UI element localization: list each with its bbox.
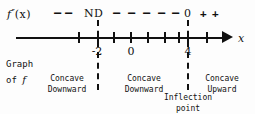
- sign-zero-marker: 0: [184, 8, 191, 20]
- graph-of-caption-line1: Graph: [6, 58, 33, 71]
- tick-mark: [78, 32, 80, 43]
- inflection-line2: point: [138, 103, 238, 114]
- inflection-line1: Inflection: [138, 92, 238, 103]
- tick-mark: [97, 32, 99, 43]
- tick-label-minus-2: -2: [92, 45, 103, 58]
- sign-minus-mid-1: –: [113, 8, 120, 18]
- tick-mark: [187, 32, 189, 43]
- sign-chart-figure: f″(x) – – ND – – – – – 0 + + x -2 0 4 Gr…: [0, 0, 255, 114]
- number-line-axis: [16, 37, 224, 39]
- region-left-concave-downward: Concave Downward: [40, 73, 94, 95]
- sign-minus-mid-2: –: [128, 8, 135, 18]
- sign-minus-left-2: –: [65, 8, 72, 18]
- sign-plus-right-2: +: [212, 8, 219, 20]
- sign-minus-mid-3: –: [143, 8, 150, 18]
- tick-mark: [147, 32, 149, 43]
- region-left-line2: Downward: [40, 84, 94, 95]
- graph-of-caption-line2: of f: [6, 73, 26, 87]
- tick-mark: [113, 32, 115, 43]
- tick-mark: [130, 32, 132, 43]
- tick-mark: [206, 32, 208, 43]
- region-left-line1: Concave: [40, 73, 94, 84]
- graph-of-prefix: of: [6, 75, 17, 85]
- axis-arrowhead-icon: [222, 31, 233, 43]
- sign-plus-right-1: +: [200, 8, 207, 20]
- sign-row: – – ND – – – – – 0 + +: [0, 8, 255, 22]
- graph-of-function-letter: f: [22, 74, 26, 85]
- sign-minus-left-1: –: [54, 8, 61, 18]
- sign-nd-marker: ND: [84, 8, 103, 20]
- sign-minus-mid-4: –: [158, 8, 165, 18]
- tick-mark: [178, 32, 180, 43]
- inflection-point-caption: Inflection point: [138, 92, 238, 114]
- tick-label-zero: 0: [128, 45, 135, 58]
- tick-label-four: 4: [185, 45, 192, 58]
- sign-minus-mid-5: –: [172, 8, 179, 18]
- region-right-line1: Concave: [194, 73, 250, 84]
- axis-variable-label: x: [238, 33, 244, 44]
- tick-mark: [164, 32, 166, 43]
- region-middle-line1: Concave: [113, 73, 175, 84]
